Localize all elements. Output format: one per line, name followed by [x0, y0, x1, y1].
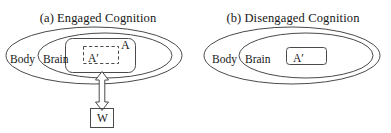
panel-disengaged-cognition: (b)Disengaged Cognition Body Brain A′	[195, 0, 391, 133]
figure-root: (a)Engaged Cognition Body Brain A′ A W (…	[0, 0, 391, 133]
brain-label-b: Brain	[245, 53, 271, 65]
bidirectional-arrow	[96, 72, 109, 111]
body-label-b: Body	[212, 53, 237, 65]
a-label-a: A	[121, 39, 130, 51]
w-label: W	[97, 112, 108, 124]
aprime-label-a: A′	[88, 52, 99, 64]
aprime-label-b: A′	[293, 52, 304, 64]
panel-engaged-cognition: (a)Engaged Cognition Body Brain A′ A W	[0, 0, 196, 133]
panel-b-graphics	[195, 0, 391, 133]
body-label-a: Body	[10, 53, 35, 65]
brain-label-a: Brain	[43, 53, 69, 65]
